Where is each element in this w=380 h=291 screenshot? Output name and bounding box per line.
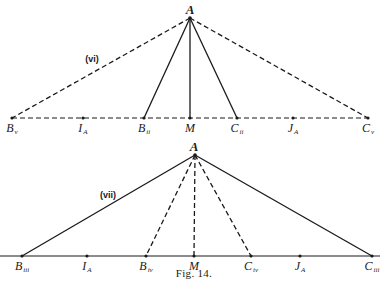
top-label-JA: JA [288, 122, 299, 136]
top-label-IA: IA [78, 122, 87, 136]
top-segment-A-Cv [190, 18, 368, 118]
bottom-label-Biii: Biii [15, 260, 29, 274]
bottom-apex-label: A [190, 140, 199, 153]
bottom-diagram-geometry [0, 153, 380, 257]
bottom-segment-A-Biv [146, 155, 195, 256]
top-point-Bii [142, 116, 145, 119]
bottom-segment-A-M [194, 155, 195, 256]
top-label-M: M [185, 122, 195, 134]
bottom-point-Biii [20, 254, 23, 257]
top-point-IA [81, 116, 84, 119]
bottom-point-Ciii [370, 254, 373, 257]
bottom-label-Civ: Civ [244, 260, 258, 274]
bottom-point-JA [298, 254, 301, 257]
bottom-diagram-tag: (vii) [100, 191, 116, 200]
top-diagram-tag: (vi) [85, 55, 99, 64]
top-point-Cv [366, 116, 369, 119]
top-label-Bii: Bii [138, 122, 150, 136]
top-label-Cii: Cii [231, 122, 244, 136]
bottom-point-Biv [144, 254, 147, 257]
bottom-point-Civ [249, 254, 252, 257]
top-point-Cii [235, 116, 238, 119]
top-label-Bv: Bv [6, 122, 17, 136]
bottom-segment-A-Biii [22, 155, 195, 256]
bottom-label-Ciii: Ciii [365, 260, 380, 274]
top-segment-A-Bv [12, 18, 190, 118]
top-apex-label: A [186, 3, 195, 16]
top-point-Bv [10, 116, 13, 119]
top-point-M [188, 116, 191, 119]
top-segment-A-Cii [190, 18, 237, 118]
figure-caption: Fig. 14. [176, 268, 212, 279]
bottom-label-JA: JA [295, 260, 306, 274]
top-diagram-geometry [10, 16, 369, 119]
top-point-JA [291, 116, 294, 119]
top-label-Cv: Cv [362, 122, 374, 136]
top-segment-A-Bii [144, 18, 190, 118]
bottom-segment-A-Civ [195, 155, 251, 256]
bottom-point-IA [85, 254, 88, 257]
bottom-point-M [192, 254, 195, 257]
bottom-segment-A-Ciii [195, 155, 372, 256]
bottom-label-IA: IA [82, 260, 91, 274]
bottom-label-Biv: Biv [139, 260, 152, 274]
